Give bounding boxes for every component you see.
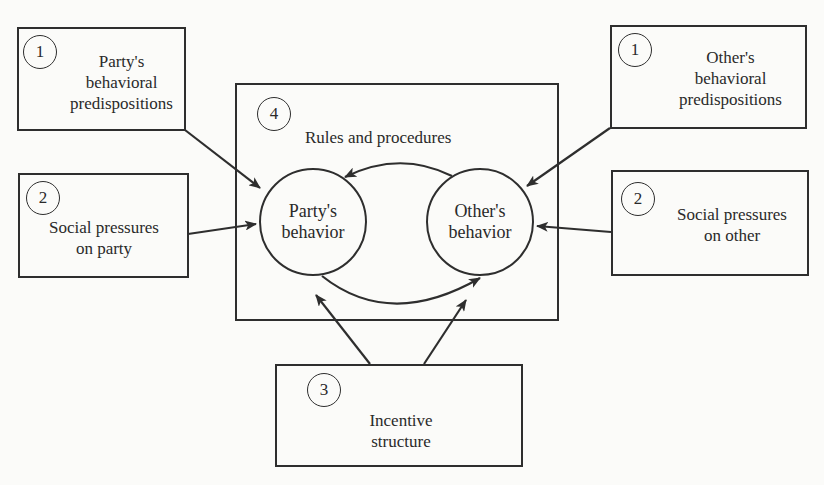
- node-party-social-pressures: 2 Social pressures on party: [18, 173, 189, 278]
- node-number-badge: 2: [621, 182, 655, 216]
- node-label: Social pressures on other: [657, 204, 807, 246]
- node-other-behavior: Other's behavior: [426, 168, 534, 276]
- node-label: Party's behavioral predispositions: [59, 51, 184, 114]
- node-number-badge: 2: [26, 181, 60, 215]
- node-other-predispositions: 1 Other's behavioral predispositions: [610, 25, 807, 129]
- node-label: Social pressures on party: [24, 217, 184, 259]
- node-number-badge: 1: [23, 35, 57, 69]
- node-number-badge: 4: [257, 97, 291, 131]
- node-label: Incentive structure: [341, 410, 461, 452]
- node-number-badge: 3: [307, 373, 341, 407]
- node-number-badge: 1: [618, 33, 652, 67]
- node-party-predispositions: 1 Party's behavioral predispositions: [17, 27, 186, 131]
- node-other-social-pressures: 2 Social pressures on other: [611, 170, 809, 276]
- node-incentive-structure: 3 Incentive structure: [275, 364, 523, 467]
- node-label: Other's behavioral predispositions: [658, 47, 803, 110]
- negotiation-behavior-diagram: 1 Party's behavioral predispositions 2 S…: [0, 0, 824, 485]
- node-label: Rules and procedures: [305, 127, 505, 148]
- node-party-behavior: Party's behavior: [259, 168, 367, 276]
